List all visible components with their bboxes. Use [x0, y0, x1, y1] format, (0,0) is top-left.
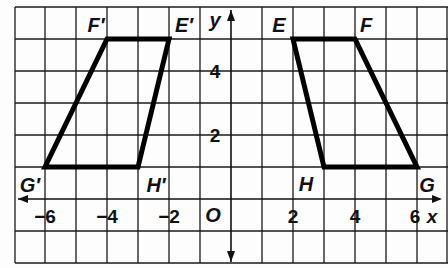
vertex-label-f: F: [360, 14, 373, 36]
x-axis: [18, 195, 442, 203]
vertex-label-h: H: [299, 173, 314, 195]
vertex-label-e: E: [272, 14, 286, 36]
origin-label: O: [205, 204, 221, 226]
y-axis-label: y: [208, 9, 221, 31]
x-tick-neg2: −2: [158, 206, 180, 227]
coordinate-grid-figure: −6 −4 −2 2 4 6 4 2 O x y E F G H E′ F′ G…: [0, 0, 448, 268]
x-tick-4: 4: [350, 206, 361, 227]
vertex-label-g: G: [419, 174, 435, 196]
x-tick-labels: −6 −4 −2 2 4 6: [34, 206, 420, 227]
x-axis-right-arrow-icon: [432, 195, 442, 203]
x-tick-neg4: −4: [96, 206, 118, 227]
x-tick-neg6: −6: [34, 206, 56, 227]
x-axis-left-arrow-icon: [18, 195, 28, 203]
vertex-label-h-prime: H′: [146, 174, 166, 196]
y-axis: [227, 10, 235, 262]
x-axis-label: x: [426, 206, 439, 227]
y-axis-up-arrow-icon: [227, 10, 235, 21]
x-tick-2: 2: [288, 206, 299, 227]
vertex-label-g-prime: G′: [20, 174, 42, 196]
vertex-label-f-prime: F′: [87, 14, 105, 36]
y-tick-4: 4: [210, 61, 221, 82]
x-tick-6: 6: [410, 206, 421, 227]
vertex-label-e-prime: E′: [175, 14, 194, 36]
y-axis-down-arrow-icon: [227, 251, 235, 262]
coordinate-plane: −6 −4 −2 2 4 6 4 2 O x y E F G H E′ F′ G…: [0, 0, 448, 268]
y-tick-2: 2: [210, 125, 221, 146]
